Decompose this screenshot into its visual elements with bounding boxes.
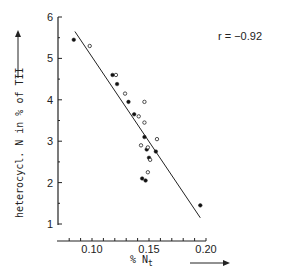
open-data-point: [155, 137, 158, 140]
open-data-point: [123, 92, 126, 95]
filled-data-point: [154, 150, 158, 154]
open-data-point: [114, 73, 117, 76]
open-data-point: [143, 100, 146, 103]
open-data-point: [146, 171, 149, 174]
y-tick-label: 3: [47, 135, 53, 147]
open-data-point: [139, 144, 142, 147]
axes: 1234560.100.150.20: [47, 11, 217, 255]
filled-data-point: [72, 38, 76, 42]
y-tick-label: 4: [47, 94, 53, 106]
x-axis-label: % Nt: [130, 254, 153, 268]
filled-data-point: [111, 73, 115, 77]
filled-data-point: [140, 177, 144, 181]
open-data-point: [148, 158, 151, 161]
scatter-chart: 1234560.100.150.20 r = −0.92 heterocycl.…: [0, 0, 292, 278]
correlation-annotation: r = −0.92: [218, 30, 262, 42]
x-tick-label: 0.20: [195, 243, 216, 255]
x-axis-arrow-icon: [190, 260, 230, 266]
y-tick-label: 5: [47, 52, 53, 64]
open-data-point: [143, 121, 146, 124]
filled-data-point: [127, 100, 131, 104]
filled-data-point: [132, 112, 136, 116]
filled-data-point: [143, 135, 147, 139]
open-data-point: [137, 115, 140, 118]
filled-data-point: [199, 204, 203, 208]
data-points: [72, 38, 202, 207]
open-data-point: [146, 146, 149, 149]
y-tick-label: 6: [47, 11, 53, 23]
regression-line: [75, 31, 200, 217]
y-tick-label: 1: [47, 218, 53, 230]
filled-data-point: [144, 179, 148, 183]
filled-data-point: [115, 82, 119, 86]
x-tick-label: 0.10: [81, 243, 102, 255]
y-tick-label: 2: [47, 177, 53, 189]
open-data-point: [88, 44, 91, 47]
y-axis-label: heterocycl. N in % of TII: [14, 67, 25, 218]
